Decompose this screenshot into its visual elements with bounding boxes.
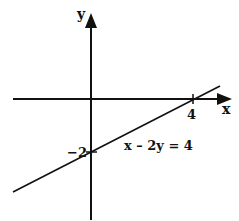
y-axis-arrow-icon (85, 13, 97, 28)
x-axis-label: x (222, 101, 231, 117)
equation-label: x – 2y = 4 (124, 138, 193, 153)
x-tick-label: 4 (187, 107, 196, 122)
y-axis-label: y (76, 6, 86, 22)
y-tick-label: −2 (67, 145, 87, 160)
graph-canvas: y x 4 −2 x – 2y = 4 (0, 0, 239, 221)
